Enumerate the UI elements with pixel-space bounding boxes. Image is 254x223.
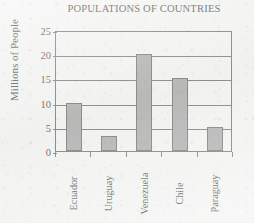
bar-slot [127,32,162,151]
bar[interactable] [66,103,82,151]
y-tick-label: 15 [21,75,51,85]
y-tick-label: 5 [21,124,51,134]
x-tick-label: Paraguay [209,157,220,223]
x-tick-label: Venezuela [138,157,149,223]
bar[interactable] [172,78,188,151]
bar-slot [198,32,233,151]
x-axis-labels: EcuadorUruguayVenezuelaChileParaguay [55,152,232,222]
x-tick-mark [232,152,233,157]
y-tick-label: 20 [21,51,51,61]
y-axis-title: Millions of People [8,5,20,115]
x-tick-label: Ecuador [67,157,78,223]
bar-chart-figure: POPULATIONS OF COUNTRIES Millions of Peo… [0,0,254,222]
bar[interactable] [136,54,152,151]
x-tick-label: Uruguay [103,157,114,223]
bar-slot [162,32,197,151]
y-tick-label: 25 [21,27,51,37]
bar-slot [56,32,91,151]
bar[interactable] [207,127,223,151]
bar-slot [91,32,126,151]
chart-title: POPULATIONS OF COUNTRIES [55,2,233,15]
bars-layer [56,32,231,151]
x-tick-label: Chile [173,157,184,223]
y-tick-label: 10 [21,100,51,110]
plot-area: 0510152025 [55,31,232,152]
y-tick-label: 0 [21,148,51,158]
bar[interactable] [101,136,117,151]
